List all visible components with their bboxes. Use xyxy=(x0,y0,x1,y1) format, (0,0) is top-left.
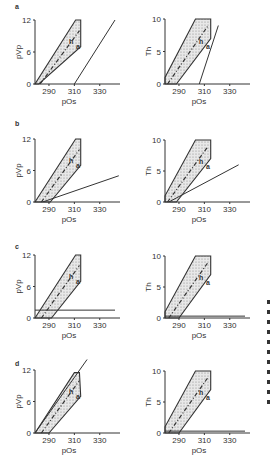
text-fragment-mark xyxy=(267,320,270,324)
x-tick-label: 290 xyxy=(42,436,56,445)
x-tick-label: 290 xyxy=(172,321,186,330)
y-axis-label: Th xyxy=(144,166,153,175)
chart-panel-a-pvp: ha0612290310330pOspVpa xyxy=(14,3,120,106)
x-tick-label: 310 xyxy=(68,321,82,330)
x-tick-label: 310 xyxy=(68,436,82,445)
x-tick-label: 330 xyxy=(223,205,237,214)
text-fragment-mark xyxy=(267,360,270,364)
y-tick-label: 5 xyxy=(157,48,162,57)
y-tick-label: 10 xyxy=(152,15,161,24)
x-axis-label: pOs xyxy=(192,331,207,340)
region-label-a: a xyxy=(76,162,80,169)
y-tick-label: 0 xyxy=(157,198,162,207)
region-label-a: a xyxy=(206,163,210,170)
text-fragment-mark xyxy=(267,300,270,304)
x-tick-label: 330 xyxy=(223,87,237,96)
x-axis-label: pOs xyxy=(192,97,207,106)
region-label-h: h xyxy=(199,389,203,396)
panel-letter: d xyxy=(15,360,19,367)
region-label-a: a xyxy=(76,393,80,400)
region-label-a: a xyxy=(206,279,210,286)
x-tick-label: 310 xyxy=(198,321,212,330)
text-fragment-mark xyxy=(267,350,270,354)
y-tick-label: 12 xyxy=(22,251,31,260)
y-tick-label: 12 xyxy=(22,366,31,375)
confidence-region xyxy=(35,255,81,318)
panel-letter: b xyxy=(15,120,19,127)
text-fragment-mark xyxy=(267,370,270,374)
y-tick-label: 0 xyxy=(27,198,32,207)
y-axis-label: Th xyxy=(144,397,153,406)
chart-panel-b-th: ha0510290310330pOsTh xyxy=(144,136,250,224)
y-tick-label: 10 xyxy=(152,136,161,145)
x-tick-label: 290 xyxy=(42,87,56,96)
x-tick-label: 330 xyxy=(93,436,107,445)
y-tick-label: 6 xyxy=(27,398,32,407)
panel-letter: a xyxy=(15,3,19,10)
region-label-h: h xyxy=(199,38,203,45)
text-fragment-mark xyxy=(267,330,270,334)
y-tick-label: 5 xyxy=(157,398,162,407)
y-axis-label: pVp xyxy=(14,44,23,59)
confidence-region xyxy=(165,140,211,202)
region-label-a: a xyxy=(206,43,210,50)
confidence-region xyxy=(35,20,81,84)
chart-panel-c-pvp: ha0612290310330pOspVpc xyxy=(14,243,120,340)
x-tick-label: 290 xyxy=(42,321,56,330)
panel-letter: c xyxy=(15,243,19,250)
x-tick-label: 330 xyxy=(93,87,107,96)
text-fragment-mark xyxy=(267,400,270,404)
x-axis-label: pOs xyxy=(192,446,207,455)
y-tick-label: 0 xyxy=(27,429,32,438)
text-fragment-mark xyxy=(267,340,270,344)
y-axis-label: Th xyxy=(144,282,153,291)
y-axis-label: pVp xyxy=(14,394,23,409)
text-fragment-mark xyxy=(267,390,270,394)
y-tick-label: 5 xyxy=(157,283,162,292)
x-tick-label: 310 xyxy=(198,205,212,214)
y-tick-label: 12 xyxy=(22,16,31,25)
x-axis-label: pOs xyxy=(192,215,207,224)
x-axis-label: pOs xyxy=(62,446,77,455)
chart-panel-a-th: ha0510290310330pOsTh xyxy=(144,15,250,106)
x-tick-label: 330 xyxy=(223,321,237,330)
x-tick-label: 310 xyxy=(68,87,82,96)
x-axis-label: pOs xyxy=(62,331,77,340)
region-label-a: a xyxy=(76,278,80,285)
confidence-region xyxy=(165,256,211,318)
y-tick-label: 0 xyxy=(157,314,162,323)
y-axis-label: pVp xyxy=(14,163,23,178)
y-tick-label: 6 xyxy=(27,48,32,57)
x-tick-label: 330 xyxy=(93,205,107,214)
y-tick-label: 6 xyxy=(27,283,32,292)
y-tick-label: 5 xyxy=(157,167,162,176)
x-tick-label: 290 xyxy=(172,87,186,96)
y-tick-label: 6 xyxy=(27,167,32,176)
x-axis-label: pOs xyxy=(62,97,77,106)
y-tick-label: 10 xyxy=(152,252,161,261)
y-tick-label: 10 xyxy=(152,367,161,376)
x-tick-label: 310 xyxy=(198,436,212,445)
chart-panel-d-pvp: ha0612290310330pOspVpd xyxy=(14,360,120,456)
confidence-region xyxy=(165,371,211,433)
confidence-region xyxy=(165,19,211,84)
chart-panel-c-th: ha0510290310330pOsTh xyxy=(144,252,250,340)
region-label-a: a xyxy=(76,43,80,50)
x-tick-label: 330 xyxy=(93,321,107,330)
x-tick-label: 290 xyxy=(42,205,56,214)
text-fragment-mark xyxy=(267,310,270,314)
region-label-h: h xyxy=(69,157,73,164)
region-label-h: h xyxy=(69,38,73,45)
y-axis-label: Th xyxy=(144,47,153,56)
region-label-h: h xyxy=(199,158,203,165)
region-label-a: a xyxy=(206,394,210,401)
region-label-h: h xyxy=(199,274,203,281)
confidence-region xyxy=(35,139,81,202)
y-tick-label: 0 xyxy=(157,429,162,438)
y-tick-label: 12 xyxy=(22,135,31,144)
region-label-h: h xyxy=(69,388,73,395)
y-axis-label: pVp xyxy=(14,279,23,294)
x-tick-label: 290 xyxy=(172,436,186,445)
x-axis-label: pOs xyxy=(62,215,77,224)
regression-line xyxy=(40,31,79,84)
